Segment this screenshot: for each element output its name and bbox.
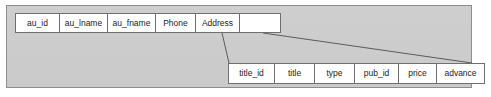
titles-table-header-row: title_id title type pub_id price advance xyxy=(228,63,485,84)
column-header-address[interactable]: Address xyxy=(196,14,240,32)
column-header-au-fname[interactable]: au_fname xyxy=(108,14,156,32)
column-header-au-lname[interactable]: au_lname xyxy=(60,14,108,32)
column-header-empty[interactable] xyxy=(240,14,280,32)
column-header-au-id[interactable]: au_id xyxy=(16,14,60,32)
column-header-type[interactable]: type xyxy=(315,64,355,83)
diagram-root: au_id au_lname au_fname Phone Address ti… xyxy=(0,0,491,97)
column-header-phone[interactable]: Phone xyxy=(156,14,196,32)
column-header-title-id[interactable]: title_id xyxy=(229,64,275,83)
column-header-advance[interactable]: advance xyxy=(437,64,484,83)
column-header-title[interactable]: title xyxy=(275,64,315,83)
column-header-price[interactable]: price xyxy=(399,64,437,83)
column-header-pub-id[interactable]: pub_id xyxy=(355,64,399,83)
authors-table-header-row: au_id au_lname au_fname Phone Address xyxy=(15,13,281,33)
